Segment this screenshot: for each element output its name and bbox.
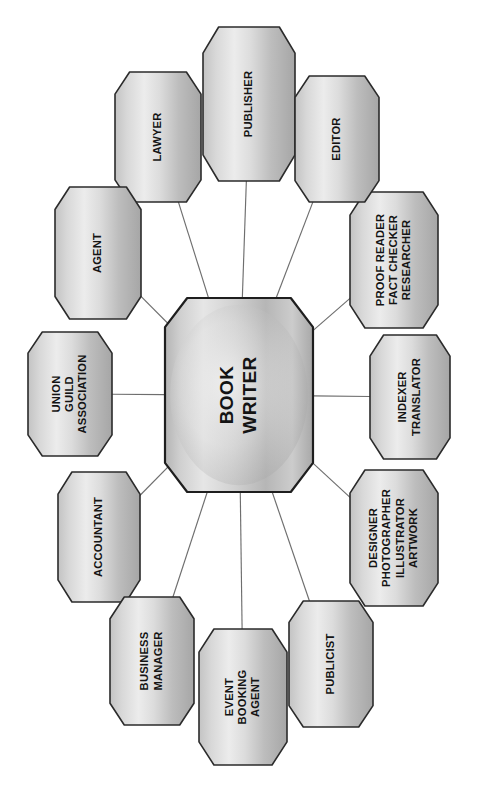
- node-label-line: MANAGER: [152, 631, 164, 690]
- node-event-booking-agent[interactable]: EVENTBOOKINGAGENT: [199, 629, 287, 765]
- node-label-line: GUILD: [63, 376, 75, 412]
- node-label-line: EVENT: [223, 678, 235, 716]
- node-accountant[interactable]: ACCOUNTANT: [58, 472, 140, 602]
- mindmap-canvas: PUBLISHERLAWYERAGENTUNIONGUILDASSOCIATIO…: [0, 0, 480, 785]
- node-label-line: INDEXER: [396, 371, 408, 422]
- node-lawyer[interactable]: LAWYER: [115, 72, 201, 202]
- node-label-line: DESIGNER: [367, 508, 379, 568]
- node-proof-reader-fact-checker-researcher[interactable]: PROOF READERFACT CHECKERRESEARCHER: [350, 192, 438, 328]
- node-label-business-manager: BUSINESSMANAGER: [138, 631, 163, 690]
- node-label-line: BOOKING: [236, 669, 248, 724]
- spoke-lawyer: [177, 196, 211, 303]
- node-label-line: ASSOCIATION: [76, 354, 88, 433]
- node-label-line: AGENT: [91, 233, 103, 273]
- node-label-line: UNION: [50, 375, 62, 412]
- node-label-line: PUBLICIST: [324, 634, 336, 695]
- node-label-line: BOOK: [216, 366, 237, 425]
- node-label-line: ILLUSTRATOR: [394, 498, 406, 578]
- spoke-publisher: [242, 181, 246, 298]
- spoke-event-booking-agent: [240, 492, 242, 629]
- node-label-line: BUSINESS: [138, 631, 150, 690]
- node-label-line: EDITOR: [330, 117, 342, 160]
- node-label-line: PROOF READER: [374, 214, 386, 307]
- node-label-line: LAWYER: [151, 112, 163, 161]
- node-label-line: AGENT: [249, 677, 261, 717]
- node-agent[interactable]: AGENT: [55, 187, 141, 319]
- node-book-writer[interactable]: BOOKWRITER: [165, 298, 313, 492]
- spoke-editor: [272, 193, 316, 309]
- node-union-guild-association[interactable]: UNIONGUILDASSOCIATION: [28, 332, 112, 456]
- nodes-layer: PUBLISHERLAWYERAGENTUNIONGUILDASSOCIATIO…: [28, 27, 450, 765]
- node-publicist[interactable]: PUBLICIST: [289, 601, 373, 727]
- node-label-line: PHOTOGRAPHER: [380, 489, 392, 587]
- node-label-publisher: PUBLISHER: [242, 71, 254, 137]
- node-label-proof-reader-fact-checker-researcher: PROOF READERFACT CHECKERRESEARCHER: [374, 214, 412, 307]
- node-label-publicist: PUBLICIST: [324, 634, 336, 695]
- spoke-publicist: [270, 485, 312, 608]
- node-label-line: TRANSLATOR: [410, 358, 422, 436]
- node-editor[interactable]: EDITOR: [295, 76, 379, 202]
- node-designer-photographer-illustrator-artwork[interactable]: DESIGNERPHOTOGRAPHERILLUSTRATORARTWORK: [350, 470, 438, 606]
- node-label-line: RESEARCHER: [400, 220, 412, 300]
- spoke-business-manager: [171, 486, 210, 604]
- node-label-editor: EDITOR: [330, 117, 342, 160]
- node-label-line: WRITER: [239, 356, 260, 433]
- node-label-accountant: ACCOUNTANT: [92, 497, 104, 577]
- node-business-manager[interactable]: BUSINESSMANAGER: [110, 597, 194, 725]
- node-label-line: FACT CHECKER: [387, 215, 399, 305]
- node-label-agent: AGENT: [91, 233, 103, 273]
- node-indexer-translator[interactable]: INDEXERTRANSLATOR: [370, 335, 450, 459]
- node-label-line: ARTWORK: [407, 508, 419, 568]
- node-label-line: ACCOUNTANT: [92, 497, 104, 577]
- node-label-lawyer: LAWYER: [151, 112, 163, 161]
- node-label-line: PUBLISHER: [242, 71, 254, 137]
- spoke-indexer-translator: [313, 396, 370, 397]
- node-publisher[interactable]: PUBLISHER: [203, 27, 295, 181]
- mindmap-svg: PUBLISHERLAWYERAGENTUNIONGUILDASSOCIATIO…: [0, 0, 480, 785]
